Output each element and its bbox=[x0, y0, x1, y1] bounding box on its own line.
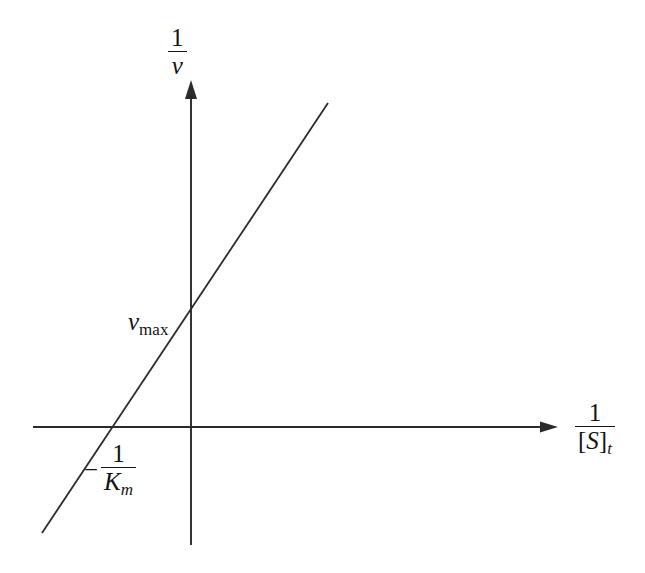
km-subscript: m bbox=[121, 480, 133, 499]
km-label: − 1 Km bbox=[84, 441, 136, 498]
x-axis-label-bracket-close: ] bbox=[599, 427, 607, 454]
x-axis-label-subscript: t bbox=[607, 439, 612, 458]
x-axis-label: 1 [S]t bbox=[575, 400, 615, 457]
lineweaver-burk-plot: 1 v 1 [S]t vmax − 1 Km bbox=[0, 0, 645, 573]
x-axis-arrowhead bbox=[540, 422, 558, 433]
x-axis-label-fraction: 1 [S]t bbox=[575, 400, 615, 457]
y-axis-arrowhead bbox=[185, 80, 197, 99]
x-axis-label-denominator: [S]t bbox=[575, 427, 615, 457]
y-axis-label: 1 v bbox=[168, 25, 187, 78]
km-label-denominator: Km bbox=[101, 468, 136, 498]
km-label-fraction: 1 Km bbox=[101, 441, 136, 498]
km-minus-sign: − bbox=[84, 457, 101, 482]
y-axis-label-denominator: v bbox=[168, 52, 187, 78]
x-axis-label-substrate-symbol: S bbox=[586, 427, 599, 454]
vmax-symbol: v bbox=[128, 308, 139, 335]
y-axis-label-numerator: 1 bbox=[168, 25, 187, 52]
vmax-subscript: max bbox=[139, 320, 168, 339]
km-label-numerator: 1 bbox=[101, 441, 136, 468]
km-symbol: K bbox=[104, 468, 121, 495]
x-axis-label-numerator: 1 bbox=[575, 400, 615, 427]
vmax-label: vmax bbox=[128, 309, 168, 338]
y-axis-label-fraction: 1 v bbox=[168, 25, 187, 78]
